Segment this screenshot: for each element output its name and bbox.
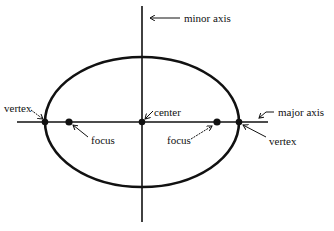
center-label: center — [154, 106, 181, 118]
vertex-right-arrow-icon — [243, 125, 266, 137]
focus-right-arrow-icon — [191, 126, 212, 139]
vertex-left-label: vertex — [4, 102, 32, 114]
major-axis-arrow-icon — [259, 112, 274, 118]
center-point — [139, 119, 146, 126]
major-axis-label: major axis — [278, 106, 324, 118]
diagram-svg: minor axis vertex center major axis focu… — [0, 0, 334, 231]
focus-right-label: focus — [167, 134, 191, 146]
vertex-left-arrow-icon — [31, 110, 43, 119]
minor-axis-label: minor axis — [184, 12, 231, 24]
ellipse-diagram: minor axis vertex center major axis focu… — [0, 0, 334, 231]
vertex-left-point — [42, 119, 49, 126]
focus-left-label: focus — [91, 134, 115, 146]
focus-right-point — [213, 118, 220, 125]
center-arrow-icon — [145, 111, 153, 119]
focus-left-point — [65, 118, 72, 125]
vertex-right-point — [236, 119, 243, 126]
focus-left-arrow-icon — [73, 125, 88, 137]
vertex-right-label: vertex — [269, 135, 297, 147]
